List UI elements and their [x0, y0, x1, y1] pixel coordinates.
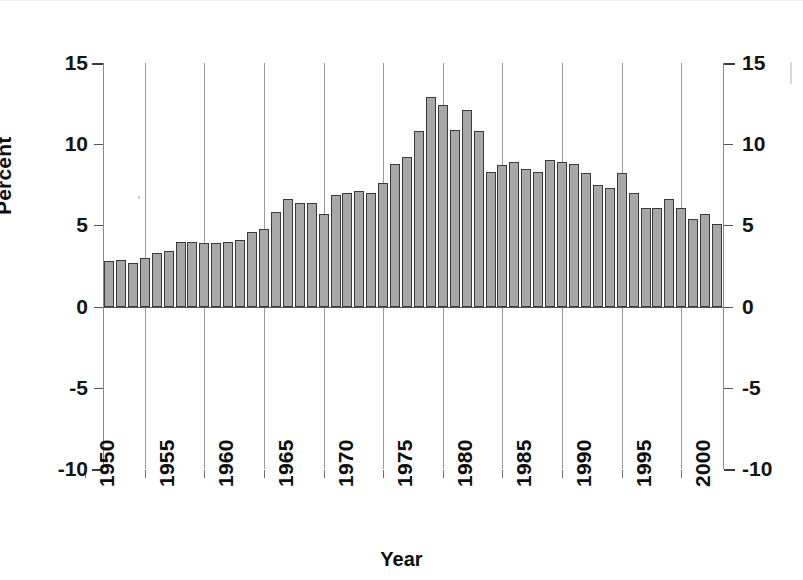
x-tick-1955	[145, 470, 146, 478]
bar	[426, 97, 436, 307]
x-tick-label-1990: 1990	[572, 439, 596, 487]
bar	[104, 261, 114, 307]
scan-speck	[138, 196, 140, 199]
y-tick-left-15	[92, 63, 103, 65]
bar	[128, 263, 138, 307]
bar	[462, 110, 472, 307]
x-tick-1995	[622, 470, 623, 478]
scan-edge-artifact	[790, 62, 792, 84]
bar	[187, 242, 197, 307]
y-tick-label-left-15: 15	[65, 52, 88, 73]
y-tick-label-left-0: 0	[76, 296, 88, 317]
x-tick-1965	[264, 470, 265, 478]
x-tick-2000	[681, 470, 682, 478]
y-tick-label-left--10: -10	[58, 458, 88, 479]
bar	[569, 164, 579, 307]
x-tick-label-1980: 1980	[453, 439, 477, 487]
y-axis-left	[103, 63, 104, 469]
bar	[402, 157, 412, 306]
bar	[378, 183, 388, 306]
x-tick-1985	[502, 470, 503, 478]
bar	[259, 229, 269, 307]
plot-area	[103, 63, 723, 469]
y-tick-left-10	[94, 144, 103, 145]
bar-series	[103, 63, 723, 469]
y-tick-label-right-15: 15	[742, 52, 765, 73]
x-tick-label-1995: 1995	[632, 439, 656, 487]
bar	[700, 214, 710, 307]
y-tick-label-left--5: -5	[69, 377, 88, 398]
x-axis-title: Year	[0, 548, 803, 571]
bar	[450, 130, 460, 307]
bar	[629, 193, 639, 307]
bar	[235, 240, 245, 307]
y-axis-right	[723, 63, 724, 469]
bar	[176, 242, 186, 307]
bar	[557, 162, 567, 307]
x-tick-1980	[443, 470, 444, 478]
y-tick-right--10	[724, 469, 735, 471]
bar	[152, 253, 162, 307]
bar	[223, 242, 233, 307]
bar	[486, 172, 496, 307]
bar	[712, 224, 722, 307]
chart-figure: Percent 19501955196019651970197519801985…	[0, 0, 803, 580]
y-tick-right--5	[724, 388, 733, 389]
y-tick-right-5	[724, 225, 733, 226]
bar	[521, 169, 531, 307]
x-tick-label-1985: 1985	[512, 439, 536, 487]
x-tick-1975	[383, 470, 384, 478]
y-tick-left-0	[94, 307, 103, 308]
x-tick-1990	[562, 470, 563, 478]
y-tick-left--5	[94, 388, 103, 389]
x-tick-label-1970: 1970	[334, 439, 358, 487]
x-tick-1970	[324, 470, 325, 478]
bar	[509, 162, 519, 307]
y-tick-label-right--10: -10	[742, 458, 772, 479]
bar	[247, 232, 257, 307]
y-tick-label-right-0: 0	[742, 296, 754, 317]
x-tick-label-1975: 1975	[393, 439, 417, 487]
bar	[605, 188, 615, 307]
x-tick-label-1955: 1955	[155, 439, 179, 487]
bar	[342, 193, 352, 307]
x-tick-label-1960: 1960	[214, 439, 238, 487]
y-tick-right-15	[724, 63, 735, 65]
y-tick-label-right-5: 5	[742, 214, 754, 235]
x-tick-label-1950: 1950	[95, 439, 119, 487]
bar	[581, 173, 591, 306]
bar	[474, 131, 484, 306]
bar	[211, 243, 221, 306]
bar	[140, 258, 150, 307]
bar	[366, 193, 376, 307]
bar	[390, 164, 400, 307]
bar	[676, 208, 686, 307]
bar	[331, 195, 341, 307]
zero-baseline	[95, 307, 731, 308]
y-tick-left-5	[94, 225, 103, 226]
y-tick-label-right-10: 10	[742, 133, 765, 154]
bar	[593, 185, 603, 307]
scan-top-edge	[0, 0, 803, 1]
bar	[438, 105, 448, 306]
bar	[354, 191, 364, 306]
y-tick-label-right--5: -5	[742, 377, 761, 398]
bar	[545, 160, 555, 306]
bar	[271, 212, 281, 306]
y-tick-right-10	[724, 144, 733, 145]
bar	[295, 203, 305, 307]
bar	[688, 219, 698, 307]
bar	[617, 173, 627, 306]
bar	[164, 251, 174, 306]
x-tick-label-1965: 1965	[274, 439, 298, 487]
bar	[199, 243, 209, 306]
y-tick-label-left-10: 10	[65, 133, 88, 154]
x-tick-label-2000: 2000	[691, 439, 715, 487]
y-tick-right-0	[724, 307, 733, 308]
bar	[533, 172, 543, 307]
bar	[283, 199, 293, 306]
bar	[319, 214, 329, 307]
x-tick-1960	[204, 470, 205, 478]
bar	[641, 208, 651, 307]
bar	[497, 165, 507, 306]
